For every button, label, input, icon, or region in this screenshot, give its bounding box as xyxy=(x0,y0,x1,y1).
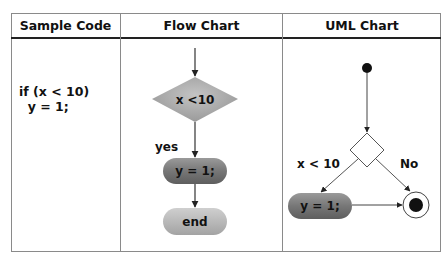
decision-label: x <10 xyxy=(176,93,215,107)
uml-false-label: No xyxy=(400,157,418,171)
flow-chart: x <10 yes y = 1; end xyxy=(152,48,238,235)
uml-start-node xyxy=(362,63,372,73)
end-label: end xyxy=(182,215,207,229)
uml-chart: x < 10 No y = 1; xyxy=(288,63,429,219)
diagrams: x <10 yes y = 1; end x < 10 No y = 1; xyxy=(0,0,448,259)
yes-label: yes xyxy=(155,140,178,154)
action-label: y = 1; xyxy=(175,164,214,178)
uml-action-label: y = 1; xyxy=(300,199,339,213)
uml-true-label: x < 10 xyxy=(297,157,340,171)
